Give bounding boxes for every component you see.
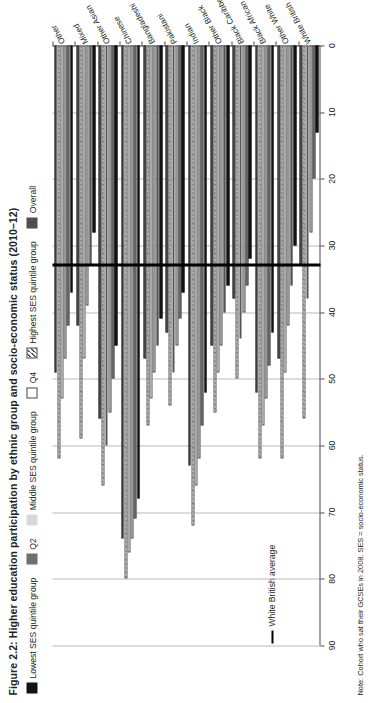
bar — [223, 45, 226, 312]
bar — [165, 45, 168, 332]
bar — [57, 45, 60, 458]
bar-group-other-asian — [98, 45, 117, 645]
bar — [197, 45, 200, 458]
bar — [306, 45, 309, 298]
bar — [66, 45, 69, 325]
bar — [302, 45, 305, 418]
bar — [82, 45, 85, 358]
bar — [283, 45, 286, 372]
legend-item-1: Q2 — [26, 538, 37, 564]
bar — [261, 45, 264, 425]
bar — [159, 45, 162, 318]
bar — [216, 45, 219, 372]
bar — [137, 45, 140, 498]
bar — [267, 45, 270, 365]
chart-legend: Lowest SES quintile groupQ2Middle SES qu… — [26, 5, 37, 693]
bar — [280, 45, 283, 458]
bar — [70, 45, 73, 292]
bar — [245, 45, 248, 285]
legend-item-4-label: Highest SES quintile group — [27, 241, 37, 344]
value-label-80: 80 — [326, 574, 336, 584]
bar — [242, 45, 245, 312]
bar — [264, 45, 267, 398]
legend-item-3-label: Q4 — [27, 371, 37, 382]
legend-item-2-swatch — [26, 514, 37, 525]
value-label-70: 70 — [326, 507, 336, 517]
legend-item-4: Highest SES quintile group — [26, 241, 37, 359]
bar — [130, 45, 133, 538]
legend-item-5: Overall — [26, 185, 37, 227]
bar — [255, 45, 258, 392]
bar — [286, 45, 289, 325]
value-tick-10 — [320, 112, 324, 113]
bar — [108, 45, 111, 412]
bar — [92, 45, 95, 232]
legend-item-0-label: Lowest SES quintile group — [27, 577, 37, 678]
bar — [143, 45, 146, 358]
value-label-60: 60 — [326, 440, 336, 450]
category-label: Mixed — [71, 22, 89, 46]
bar — [172, 45, 175, 372]
category-label: Chinese — [112, 14, 134, 45]
bar — [121, 45, 124, 538]
legend-item-3: Q4 — [26, 371, 37, 397]
bar — [54, 45, 57, 372]
bar — [178, 45, 181, 318]
legend-item-5-swatch — [26, 217, 37, 228]
bar — [271, 45, 274, 332]
bar — [124, 45, 127, 578]
bar-group-bangladeshi — [143, 45, 162, 645]
bar — [133, 45, 136, 518]
legend-item-3-swatch — [26, 387, 37, 398]
bar — [146, 45, 149, 425]
category-label: Pakistani — [155, 12, 179, 46]
bar — [248, 45, 251, 258]
bar — [156, 45, 159, 345]
bar-group-other — [54, 45, 73, 645]
legend-item-2: Middle SES quintile group — [26, 411, 37, 525]
value-label-50: 50 — [326, 374, 336, 384]
bar — [79, 45, 82, 438]
category-axis — [319, 45, 320, 645]
category-label: Indian — [182, 21, 200, 45]
bar — [76, 45, 79, 325]
value-label-90: 90 — [326, 640, 336, 650]
bar — [191, 45, 194, 525]
bar — [309, 45, 312, 232]
bar-group-black-african — [255, 45, 274, 645]
value-tick-40 — [320, 312, 324, 313]
category-axis-labels: White BritishOther WhiteBlack AfricanBla… — [52, 0, 320, 45]
bar — [226, 45, 229, 285]
legend-item-1-label: Q2 — [27, 538, 37, 549]
bar — [152, 45, 155, 372]
bar — [188, 45, 191, 465]
bar — [235, 45, 238, 378]
bar — [111, 45, 114, 378]
category-label: Other — [49, 23, 67, 45]
bar — [63, 45, 66, 358]
rotated-figure-host: Figure 2.2: Higher education participati… — [0, 0, 370, 703]
bar-group-mixed — [76, 45, 95, 645]
value-label-0: 0 — [326, 43, 336, 48]
value-tick-70 — [320, 512, 324, 513]
bar — [204, 45, 207, 392]
bar — [149, 45, 152, 398]
legend-item-0: Lowest SES quintile group — [26, 577, 37, 693]
bar — [181, 45, 184, 292]
value-tick-30 — [320, 245, 324, 246]
bar — [219, 45, 222, 345]
bar — [293, 45, 296, 245]
value-label-30: 30 — [326, 240, 336, 250]
bar — [98, 45, 101, 418]
bar — [210, 45, 213, 345]
value-tick-0 — [320, 45, 324, 46]
legend-item-5-label: Overall — [27, 185, 37, 212]
bar-group-pakistani — [165, 45, 184, 645]
value-tick-80 — [320, 578, 324, 579]
bar — [312, 45, 315, 178]
value-label-10: 10 — [326, 107, 336, 117]
bar — [277, 45, 280, 358]
bar-group-other-white — [277, 45, 296, 645]
bar — [239, 45, 242, 338]
value-axis-labels: 0102030405060708090 — [326, 45, 346, 645]
